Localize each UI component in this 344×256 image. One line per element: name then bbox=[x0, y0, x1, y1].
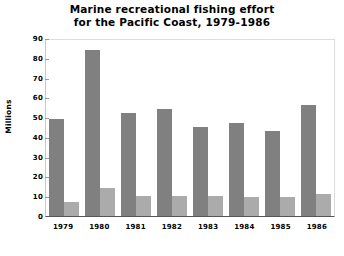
chart-title: Marine recreational fishing effort for t… bbox=[0, 3, 344, 29]
chart-figure: Marine recreational fishing effort for t… bbox=[0, 0, 344, 256]
bar bbox=[121, 113, 136, 216]
bar bbox=[301, 105, 316, 216]
bar bbox=[208, 196, 223, 216]
bar bbox=[157, 109, 172, 216]
bar bbox=[85, 50, 100, 216]
bar bbox=[49, 119, 64, 216]
x-tick-label: 1980 bbox=[83, 223, 115, 231]
y-tick-mark bbox=[45, 197, 49, 198]
y-tick-label: 90 bbox=[23, 35, 43, 43]
y-tick-mark bbox=[45, 59, 49, 60]
bar bbox=[193, 127, 208, 216]
y-tick-label: 40 bbox=[23, 134, 43, 142]
y-tick-label: 20 bbox=[23, 173, 43, 181]
bar bbox=[172, 196, 187, 216]
y-tick-label: 60 bbox=[23, 94, 43, 102]
y-axis-tick-labels: 0102030405060708090 bbox=[0, 39, 43, 217]
y-tick-label: 70 bbox=[23, 75, 43, 83]
bar-group bbox=[228, 40, 260, 216]
x-tick-label: 1982 bbox=[156, 223, 188, 231]
bar bbox=[316, 194, 331, 216]
bar-group bbox=[192, 40, 224, 216]
bar-group bbox=[264, 40, 296, 216]
bar bbox=[280, 197, 295, 216]
chart-title-line-2: for the Pacific Coast, 1979-1986 bbox=[0, 16, 344, 29]
y-tick-label: 30 bbox=[23, 154, 43, 162]
bar bbox=[244, 197, 259, 216]
bar-group bbox=[48, 40, 80, 216]
bar bbox=[64, 202, 79, 216]
y-tick-mark bbox=[45, 118, 49, 119]
y-tick-mark bbox=[45, 98, 49, 99]
y-tick-mark bbox=[45, 177, 49, 178]
bar bbox=[229, 123, 244, 216]
x-tick-label: 1986 bbox=[301, 223, 333, 231]
x-tick-label: 1981 bbox=[120, 223, 152, 231]
plot-area bbox=[45, 39, 335, 217]
y-tick-mark bbox=[45, 138, 49, 139]
bar bbox=[136, 196, 151, 216]
y-tick-mark bbox=[45, 39, 49, 40]
x-tick-label: 1983 bbox=[192, 223, 224, 231]
y-tick-label: 10 bbox=[23, 193, 43, 201]
y-tick-mark bbox=[45, 158, 49, 159]
chart-title-line-1: Marine recreational fishing effort bbox=[0, 3, 344, 16]
bar bbox=[100, 188, 115, 216]
x-tick-label: 1984 bbox=[228, 223, 260, 231]
bar-group bbox=[156, 40, 188, 216]
x-tick-label: 1985 bbox=[265, 223, 297, 231]
bar-group bbox=[300, 40, 332, 216]
bar-group bbox=[84, 40, 116, 216]
bar-group bbox=[120, 40, 152, 216]
bar bbox=[265, 131, 280, 216]
y-tick-label: 80 bbox=[23, 55, 43, 63]
x-axis-tick-labels: 19791980198119821983198419851986 bbox=[45, 223, 335, 231]
y-tick-label: 0 bbox=[23, 213, 43, 221]
y-tick-mark bbox=[45, 79, 49, 80]
x-tick-label: 1979 bbox=[47, 223, 79, 231]
y-tick-label: 50 bbox=[23, 114, 43, 122]
bar-groups bbox=[46, 40, 334, 216]
